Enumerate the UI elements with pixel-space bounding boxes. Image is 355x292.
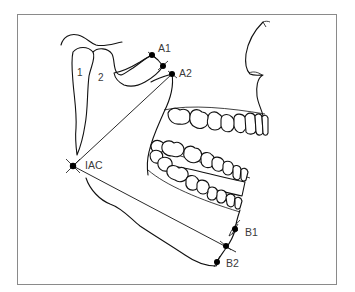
region-2-label: 2 [98, 72, 104, 83]
region-1-label: 1 [77, 67, 83, 78]
landmark-a1-label: A1 [158, 42, 171, 54]
landmark-iac-label: IAC [85, 159, 103, 171]
landmark-b2-dot [214, 259, 220, 265]
landmark-b1-dot [232, 226, 238, 232]
landmark-a-mid-dot [160, 63, 166, 69]
landmark-iac-dot [70, 163, 76, 169]
mandible-diagram: 1 2 A1 A2 IAC B1 B2 [0, 0, 355, 292]
landmark-b1-label: B1 [245, 226, 258, 238]
landmark-a2-label: A2 [179, 67, 192, 79]
landmark-b2-label: B2 [226, 257, 239, 269]
landmark-a2-dot [169, 71, 175, 77]
landmark-b-mid-dot [223, 243, 229, 249]
landmark-a1-dot [149, 52, 155, 58]
